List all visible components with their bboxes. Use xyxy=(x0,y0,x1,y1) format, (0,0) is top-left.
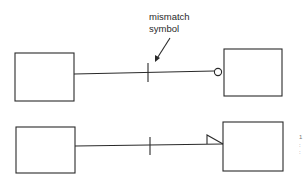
edge-text-fragment-1: 1 xyxy=(299,134,302,141)
top-connector-line xyxy=(74,71,214,74)
top-circle-terminator-icon xyxy=(214,68,221,75)
bottom-connector-line xyxy=(75,144,223,146)
top-left-entity-box xyxy=(15,53,74,101)
bottom-right-entity-box xyxy=(223,122,283,171)
arrowhead-icon xyxy=(155,55,160,62)
annotation-label-line2: symbol xyxy=(149,24,179,34)
top-right-entity-box xyxy=(224,49,282,96)
annotation-arrow xyxy=(156,38,170,60)
annotation-label-line1: mismatch xyxy=(149,12,190,22)
edge-text-fragment-3: : xyxy=(299,149,301,156)
bottom-left-entity-box xyxy=(16,127,75,173)
bottom-triangle-terminator-icon xyxy=(207,135,223,144)
edge-text-fragment-2: : xyxy=(299,142,301,149)
